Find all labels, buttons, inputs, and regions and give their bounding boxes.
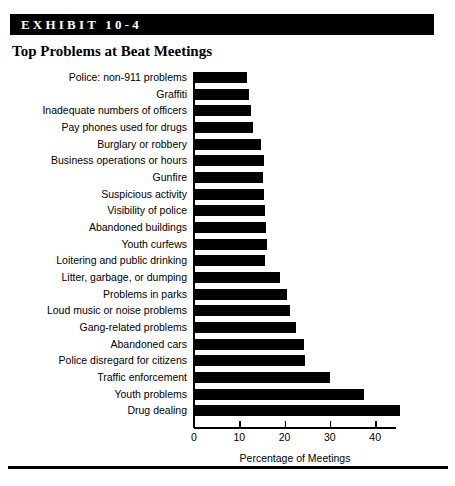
exhibit-figure: EXHIBIT 10-4 Top Problems at Beat Meetin… [0, 0, 455, 486]
bar-category-label: Gang-related problems [80, 321, 187, 334]
bar-row: Loud music or noise problems [0, 303, 455, 320]
figure-title: Top Problems at Beat Meetings [12, 43, 212, 60]
bar [194, 389, 364, 400]
bar-row: Traffic enforcement [0, 370, 455, 387]
bar-category-label: Pay phones used for drugs [62, 121, 188, 134]
bar [194, 189, 264, 200]
y-axis-line [193, 72, 195, 428]
bar-category-label: Traffic enforcement [97, 371, 187, 384]
bar-category-label: Business operations or hours [51, 154, 187, 167]
bar-row: Visibility of police [0, 203, 455, 220]
bar-category-label: Loud music or noise problems [47, 304, 187, 317]
bar-chart-plot-area: Police: non-911 problemsGraffitiInadequa… [0, 70, 455, 420]
bar-row: Inadequate numbers of officers [0, 103, 455, 120]
x-axis-tick-label: 0 [179, 431, 209, 444]
x-axis-tick-label: 20 [270, 431, 300, 444]
bar-category-label: Suspicious activity [101, 188, 187, 201]
bar-row: Burglary or robbery [0, 137, 455, 154]
bar-row: Youth problems [0, 387, 455, 404]
bar [194, 172, 263, 183]
x-axis-tick [330, 421, 331, 428]
bar-row: Police disregard for citizens [0, 353, 455, 370]
bar-row: Suspicious activity [0, 187, 455, 204]
bar [194, 372, 330, 383]
x-axis-tick-label: 30 [315, 431, 345, 444]
bar [194, 289, 287, 300]
bar [194, 222, 266, 233]
bar [194, 122, 253, 133]
bar-category-label: Inadequate numbers of officers [42, 104, 187, 117]
bar-row: Gang-related problems [0, 320, 455, 337]
bar [194, 155, 264, 166]
x-axis-tick-label: 10 [224, 431, 254, 444]
bottom-rule [8, 466, 448, 469]
bar-row: Drug dealing [0, 403, 455, 420]
x-axis-tick [375, 421, 376, 428]
bar-category-label: Abandoned buildings [89, 221, 187, 234]
bar-row: Business operations or hours [0, 153, 455, 170]
bar-row: Police: non-911 problems [0, 70, 455, 87]
bar [194, 405, 400, 416]
x-axis-tick [285, 421, 286, 428]
bar [194, 355, 305, 366]
bar [194, 89, 249, 100]
bar [194, 322, 296, 333]
x-axis-title: Percentage of Meetings [194, 452, 396, 464]
bar-row: Pay phones used for drugs [0, 120, 455, 137]
bar-category-label: Drug dealing [127, 404, 187, 417]
exhibit-banner: EXHIBIT 10-4 [10, 14, 434, 35]
bar-row: Graffiti [0, 87, 455, 104]
bar-row: Litter, garbage, or dumping [0, 270, 455, 287]
x-axis-tick-label: 40 [360, 431, 390, 444]
bar-row: Problems in parks [0, 287, 455, 304]
bar-category-label: Youth problems [114, 388, 187, 401]
bar [194, 72, 247, 83]
bar-row: Abandoned buildings [0, 220, 455, 237]
bar-category-label: Problems in parks [103, 288, 187, 301]
bar-category-label: Loitering and public drinking [56, 254, 187, 267]
bar [194, 272, 280, 283]
bar [194, 205, 265, 216]
bar-category-label: Graffiti [156, 88, 187, 101]
bar-category-label: Visibility of police [107, 204, 187, 217]
bar [194, 305, 290, 316]
x-axis-tick [239, 421, 240, 428]
bar-row: Gunfire [0, 170, 455, 187]
bar [194, 239, 267, 250]
exhibit-banner-label: EXHIBIT 10-4 [21, 17, 142, 32]
bar-category-label: Gunfire [153, 171, 187, 184]
bar [194, 139, 261, 150]
bar [194, 339, 304, 350]
bar [194, 105, 251, 116]
bar-category-label: Burglary or robbery [97, 138, 187, 151]
bar-row: Loitering and public drinking [0, 253, 455, 270]
bar-row: Youth curfews [0, 237, 455, 254]
bar-category-label: Police: non-911 problems [69, 71, 187, 84]
bar [194, 255, 265, 266]
bar-category-label: Litter, garbage, or dumping [62, 271, 188, 284]
bar-category-label: Police disregard for citizens [59, 354, 187, 367]
bar-category-label: Abandoned cars [111, 338, 187, 351]
x-axis-line [194, 427, 396, 429]
x-axis: Percentage of Meetings 010203040 [0, 420, 455, 486]
bar-row: Abandoned cars [0, 337, 455, 354]
bar-category-label: Youth curfews [121, 238, 187, 251]
x-axis-tick [194, 421, 195, 428]
